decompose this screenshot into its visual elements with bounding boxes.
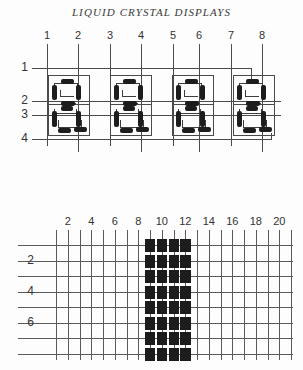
circuit-row-label-3: 3	[14, 108, 28, 120]
activated-pixel	[169, 332, 179, 345]
circuit-internal-wire	[58, 120, 59, 128]
activated-pixel	[180, 348, 190, 361]
activated-pixel	[180, 239, 190, 252]
activated-pixel	[169, 301, 179, 314]
activated-pixel	[157, 332, 167, 345]
transistor-vertical	[138, 85, 143, 100]
transistor-horizontal	[246, 79, 259, 84]
circuit-column-label-1: 1	[40, 30, 54, 41]
circuit-column-label-2: 2	[71, 30, 85, 41]
activated-pixel	[169, 348, 179, 361]
activated-pixel	[169, 317, 179, 330]
circuit-internal-wire	[184, 90, 185, 97]
transistor-vertical	[176, 111, 181, 127]
activated-pixel	[145, 239, 155, 252]
transistor-vertical	[114, 85, 119, 100]
transistor-horizontal	[185, 106, 197, 111]
circuit-internal-wire	[184, 96, 198, 97]
circuit-cell-3	[172, 75, 214, 137]
circuit-cell-1	[48, 75, 90, 137]
activated-pixel	[180, 255, 190, 268]
transistor-vertical	[200, 85, 205, 100]
activated-pixel	[157, 301, 167, 314]
circuit-internal-wire	[122, 96, 136, 97]
circuit-column-label-6: 6	[192, 30, 206, 41]
transistor-vertical	[52, 85, 57, 100]
transistor-horizontal	[61, 106, 73, 111]
transistor-horizontal	[74, 127, 87, 132]
activated-pixel	[180, 301, 190, 314]
pixel-matrix-chart: 2468101214161820 246	[0, 196, 303, 370]
circuit-column-label-5: 5	[166, 30, 180, 41]
transistor-vertical	[237, 111, 242, 127]
activated-pixel	[145, 301, 155, 314]
transistor-vertical	[261, 85, 266, 100]
circuit-row-label-4: 4	[14, 132, 28, 144]
circuit-column-label-3: 3	[103, 30, 117, 41]
activated-pixel	[180, 317, 190, 330]
circuit-column-label-7: 7	[224, 30, 238, 41]
figure-caption	[0, 363, 303, 370]
transistor-vertical	[76, 111, 81, 127]
circuit-schematic: 12345678 1234	[0, 28, 303, 173]
circuit-internal-wire	[243, 120, 244, 128]
activated-pixel	[157, 255, 167, 268]
circuit-cell-2	[110, 75, 152, 137]
circuit-internal-wire	[60, 90, 61, 97]
transistor-vertical	[52, 111, 57, 127]
transistor-horizontal	[58, 128, 71, 133]
activated-pixel	[180, 332, 190, 345]
activated-pixel	[169, 286, 179, 299]
transistor-horizontal	[123, 79, 136, 84]
transistor-horizontal	[120, 128, 133, 133]
transistor-horizontal	[243, 128, 256, 133]
transistor-vertical	[261, 111, 266, 127]
transistor-horizontal	[61, 79, 74, 84]
circuit-column-label-8: 8	[255, 30, 269, 41]
circuit-row-label-2: 2	[14, 94, 28, 106]
activated-pixel	[145, 270, 155, 283]
circuit-column-label-4: 4	[134, 30, 148, 41]
activated-pixel-region	[0, 196, 303, 370]
transistor-vertical	[200, 111, 205, 127]
activated-pixel	[145, 255, 155, 268]
activated-pixel	[169, 255, 179, 268]
activated-pixel	[157, 270, 167, 283]
circuit-internal-wire	[120, 120, 121, 128]
transistor-horizontal	[182, 128, 195, 133]
transistor-horizontal	[185, 79, 198, 84]
activated-pixel	[157, 239, 167, 252]
activated-pixel	[169, 239, 179, 252]
circuit-internal-wire	[245, 90, 246, 97]
transistor-horizontal	[198, 127, 211, 132]
circuit-row-label-1: 1	[14, 61, 28, 73]
page-title: LIQUID CRYSTAL DISPLAYS	[0, 6, 303, 18]
figure-page: LIQUID CRYSTAL DISPLAYS 12345678 1234 24…	[0, 0, 303, 370]
circuit-internal-wire	[178, 113, 200, 114]
circuit-column-line	[231, 46, 232, 146]
activated-pixel	[157, 286, 167, 299]
circuit-internal-wire	[54, 113, 76, 114]
circuit-row-line-1	[32, 68, 252, 69]
activated-pixel	[145, 332, 155, 345]
activated-pixel	[145, 317, 155, 330]
activated-pixel	[157, 317, 167, 330]
circuit-internal-wire	[182, 120, 183, 128]
transistor-horizontal	[136, 127, 149, 132]
activated-pixel	[180, 270, 190, 283]
transistor-horizontal	[246, 106, 258, 111]
transistor-vertical	[76, 85, 81, 100]
activated-pixel	[180, 286, 190, 299]
transistor-vertical	[176, 85, 181, 100]
circuit-internal-wire	[245, 96, 259, 97]
circuit-cell-4	[233, 75, 275, 137]
activated-pixel	[145, 286, 155, 299]
activated-pixel	[145, 348, 155, 361]
transistor-horizontal	[259, 127, 272, 132]
transistor-vertical	[138, 111, 143, 127]
transistor-horizontal	[123, 106, 135, 111]
circuit-row-line-4	[32, 139, 272, 140]
activated-pixel	[169, 270, 179, 283]
transistor-vertical	[114, 111, 119, 127]
activated-pixel	[157, 348, 167, 361]
